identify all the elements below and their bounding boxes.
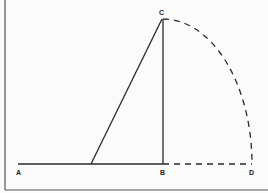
label-c: C [159,9,164,16]
segment-hypotenuse [91,19,162,164]
arc-cd-dashed [163,19,252,164]
geometry-diagram: A B C D [0,0,268,193]
label-d: D [249,169,254,176]
label-a: A [16,169,21,176]
label-b: B [160,169,165,176]
